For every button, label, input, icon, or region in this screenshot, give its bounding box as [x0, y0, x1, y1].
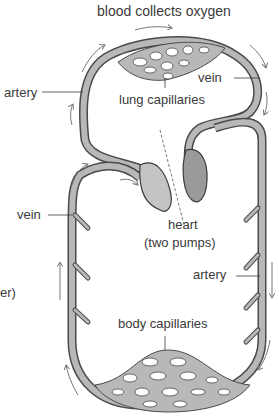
- label-lung-capillaries: lung capillaries: [119, 93, 205, 106]
- body-capillaries-mesh: [95, 350, 250, 412]
- label-body-capillaries: body capillaries: [118, 317, 208, 330]
- label-artery-right: artery: [193, 268, 226, 281]
- label-vein-top: vein: [198, 71, 222, 84]
- label-artery-left: artery: [4, 86, 37, 99]
- label-heart-subtitle: (two pumps): [144, 236, 216, 249]
- circulation-diagram: [0, 0, 279, 420]
- label-vein-left: vein: [17, 208, 41, 221]
- label-cut-off: er): [0, 286, 16, 299]
- label-blood-collects-oxygen: blood collects oxygen: [97, 4, 231, 18]
- label-heart: heart: [168, 218, 198, 231]
- heart-icon: [140, 130, 207, 225]
